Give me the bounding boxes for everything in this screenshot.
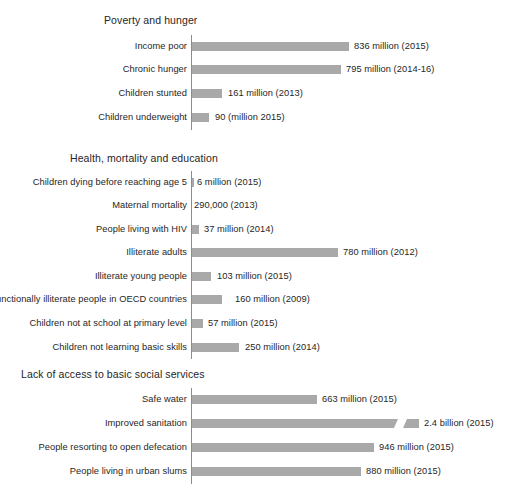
chart-section-health-mortality-education: Health, mortality and education Children… xyxy=(0,152,510,352)
value-label: 795 million (2014-16) xyxy=(346,58,434,81)
bar-row[interactable]: Children dying before reaching age 5 6 m… xyxy=(0,171,510,194)
bar[interactable] xyxy=(192,178,194,187)
value-label: 57 million (2015) xyxy=(208,312,278,335)
category-label: People living with HIV xyxy=(96,218,187,241)
category-label: Children underweight xyxy=(98,106,187,129)
value-label: 37 million (2014) xyxy=(204,218,274,241)
category-label: Maternal mortality xyxy=(112,194,187,217)
category-label: People living in urban slums xyxy=(70,460,187,483)
bar[interactable] xyxy=(192,89,222,98)
section-rows: Income poor 836 million (2015) Chronic h… xyxy=(0,35,510,132)
category-label: Children dying before reaching age 5 xyxy=(33,171,187,194)
value-label: 880 million (2015) xyxy=(366,460,441,483)
bar-row[interactable]: Income poor 836 million (2015) xyxy=(0,35,510,58)
bar[interactable] xyxy=(192,343,239,352)
category-label: Income poor xyxy=(135,35,187,58)
value-label: 250 million (2014) xyxy=(245,336,320,359)
category-label: Children not learning basic skills xyxy=(52,336,187,359)
bar-row[interactable]: Children not at school at primary level … xyxy=(0,312,510,335)
bar[interactable] xyxy=(192,319,203,328)
bar[interactable] xyxy=(192,248,338,257)
value-label: 290,000 (2013) xyxy=(194,194,258,217)
category-label: Improved sanitation xyxy=(105,412,187,435)
category-label: People resorting to open defecation xyxy=(38,436,187,459)
bar-row[interactable]: Safe water 663 million (2015) xyxy=(0,388,510,411)
bar-row[interactable]: People living with HIV 37 million (2014) xyxy=(0,218,510,241)
bar[interactable] xyxy=(192,225,199,234)
value-label: 780 million (2012) xyxy=(343,241,418,264)
value-label: 946 million (2015) xyxy=(379,436,454,459)
section-title: Health, mortality and education xyxy=(70,152,218,164)
value-label: 103 million (2015) xyxy=(217,265,292,288)
bar-row[interactable]: Children stunted 161 million (2013) xyxy=(0,82,510,105)
section-title: Poverty and hunger xyxy=(104,14,197,26)
value-label: 6 million (2015) xyxy=(197,171,261,194)
bar-row[interactable]: Improved sanitation 2.4 billion (2015) xyxy=(0,412,510,435)
value-label: 663 million (2015) xyxy=(322,388,397,411)
bar[interactable] xyxy=(192,65,341,74)
bar-chart-root: Poverty and hunger Income poor 836 milli… xyxy=(0,0,510,496)
bar[interactable] xyxy=(192,395,317,404)
bar-row[interactable]: Chronic hunger 795 million (2014-16) xyxy=(0,58,510,81)
bar[interactable] xyxy=(192,467,361,476)
value-label: 90 (million 2015) xyxy=(215,106,285,129)
bar-row[interactable]: Children underweight 90 (million 2015) xyxy=(0,106,510,129)
bar-row[interactable]: Maternal mortality 290,000 (2013) xyxy=(0,194,510,217)
bar-row[interactable]: Children not learning basic skills 250 m… xyxy=(0,336,510,359)
value-label: 2.4 billion (2015) xyxy=(424,412,494,435)
bar[interactable] xyxy=(192,295,222,304)
bar[interactable] xyxy=(192,113,209,122)
bar-row[interactable]: Functionally illiterate people in OECD c… xyxy=(0,288,510,311)
category-label: Children not at school at primary level xyxy=(30,312,188,335)
bar-row[interactable]: Illiterate adults 780 million (2012) xyxy=(0,241,510,264)
bar-row[interactable]: Illiterate young people 103 million (201… xyxy=(0,265,510,288)
bar[interactable] xyxy=(192,42,349,51)
category-label: Chronic hunger xyxy=(123,58,187,81)
value-label: 160 million (2009) xyxy=(235,288,310,311)
category-label: Children stunted xyxy=(118,82,187,105)
category-label: Illiterate young people xyxy=(95,265,187,288)
bar-row[interactable]: People resorting to open defecation 946 … xyxy=(0,436,510,459)
value-label: 836 million (2015) xyxy=(354,35,429,58)
bar-row[interactable]: People living in urban slums 880 million… xyxy=(0,460,510,483)
chart-section-poverty-and-hunger: Poverty and hunger Income poor 836 milli… xyxy=(0,14,510,139)
section-rows: Children dying before reaching age 5 6 m… xyxy=(0,171,510,359)
value-label: 161 million (2013) xyxy=(228,82,303,105)
section-title: Lack of access to basic social services xyxy=(21,368,205,380)
chart-section-lack-of-access: Lack of access to basic social services … xyxy=(0,368,510,488)
category-label: Functionally illiterate people in OECD c… xyxy=(0,288,187,311)
bar-with-axis-break[interactable] xyxy=(192,419,419,428)
bar[interactable] xyxy=(192,272,211,281)
section-rows: Safe water 663 million (2015) Improved s… xyxy=(0,388,510,486)
category-label: Illiterate adults xyxy=(126,241,187,264)
bar[interactable] xyxy=(192,443,374,452)
category-label: Safe water xyxy=(142,388,187,411)
